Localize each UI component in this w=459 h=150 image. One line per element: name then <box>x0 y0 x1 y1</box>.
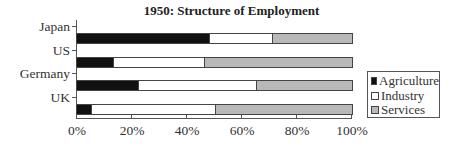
chart-title: 1950: Structure of Employment <box>0 3 459 19</box>
x-tick-label: 20% <box>120 123 145 139</box>
x-tick-label: 100% <box>336 123 368 139</box>
legend-item-agriculture: Agriculture <box>371 74 439 89</box>
bar-segment-services <box>204 58 353 67</box>
legend-label: Services <box>381 103 425 117</box>
bar-japan <box>76 33 353 44</box>
bar-segment-services <box>215 105 353 114</box>
y-tick <box>72 50 77 51</box>
bar-segment-agriculture <box>77 105 91 114</box>
legend-item-services: Services <box>371 103 439 118</box>
bar-us <box>76 57 353 68</box>
x-tick-label: 0% <box>68 123 86 139</box>
bar-segment-agriculture <box>77 34 209 43</box>
category-label: US <box>53 44 70 58</box>
x-tick <box>186 115 187 119</box>
x-tick-label: 40% <box>175 123 200 139</box>
bar-segment-services <box>256 81 352 90</box>
x-tick <box>131 115 132 119</box>
bar-segment-industry <box>113 58 204 67</box>
y-tick <box>72 97 77 98</box>
legend-label: Industry <box>381 89 424 103</box>
bar-segment-industry <box>91 105 215 114</box>
x-tick <box>351 115 352 119</box>
x-tick <box>241 115 242 119</box>
x-tick <box>76 115 77 119</box>
x-tick-label: 60% <box>230 123 255 139</box>
bar-segment-agriculture <box>77 58 113 67</box>
stacked-bar-chart: 1950: Structure of Employment JapanUSGer… <box>0 0 459 150</box>
x-axis-line <box>76 118 352 119</box>
legend-item-industry: Industry <box>371 89 439 104</box>
category-label: Germany <box>20 67 70 81</box>
bar-germany <box>76 80 353 91</box>
y-tick <box>72 26 77 27</box>
industry-swatch-icon <box>371 92 379 100</box>
agriculture-swatch-icon <box>371 77 377 85</box>
category-label: Japan <box>39 20 70 34</box>
legend: Agriculture Industry Services <box>367 71 440 118</box>
y-tick <box>72 73 77 74</box>
legend-label: Agriculture <box>379 74 439 88</box>
bar-segment-agriculture <box>77 81 138 90</box>
bar-segment-services <box>272 34 352 43</box>
category-label: UK <box>51 91 71 105</box>
bar-segment-industry <box>138 81 256 90</box>
bar-segment-industry <box>209 34 272 43</box>
services-swatch-icon <box>371 106 379 114</box>
bar-uk <box>76 104 353 115</box>
x-tick-label: 80% <box>285 123 310 139</box>
x-tick <box>296 115 297 119</box>
